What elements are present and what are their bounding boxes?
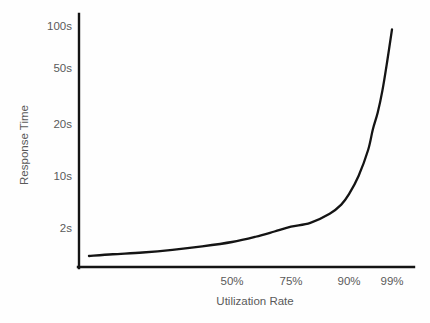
y-axis-title: Response Time	[18, 105, 30, 185]
x-tick-label-90: 90%	[337, 275, 360, 287]
x-tick-label-50: 50%	[220, 275, 243, 287]
chart-figure: 100s 50s 20s 10s 2s 50% 75% 90% 99% Resp…	[0, 0, 430, 323]
y-tick-label-10s: 10s	[53, 170, 72, 182]
y-tick-label-2s: 2s	[60, 222, 72, 234]
y-tick-label-100s: 100s	[47, 20, 72, 32]
y-tick-label-20s: 20s	[53, 118, 72, 130]
y-tick-label-50s: 50s	[53, 62, 72, 74]
x-tick-label-99: 99%	[380, 275, 403, 287]
x-axis-title: Utilization Rate	[216, 295, 293, 307]
response-time-chart: 100s 50s 20s 10s 2s 50% 75% 90% 99% Resp…	[0, 0, 430, 323]
x-tick-label-75: 75%	[279, 275, 302, 287]
